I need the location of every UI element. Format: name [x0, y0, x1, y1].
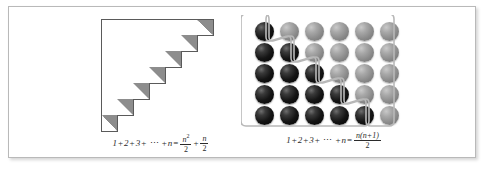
- grid-cell: [149, 51, 166, 68]
- sphere-light: [280, 22, 299, 41]
- sphere-light: [355, 85, 374, 104]
- sphere-dark: [305, 85, 324, 104]
- grid-cell-diagonal: [101, 115, 118, 132]
- right-ellipsis: ⋯: [323, 135, 332, 145]
- sphere-light: [305, 43, 324, 62]
- grid-cell: [117, 35, 134, 52]
- sphere-light: [380, 22, 399, 41]
- grid-cell: [165, 35, 182, 52]
- left-frac1-denominator: 2: [180, 145, 191, 154]
- sphere-light: [330, 22, 349, 41]
- grid-cell-diagonal: [165, 51, 182, 68]
- grid-cell: [117, 83, 134, 100]
- grid-cell-diagonal: [197, 19, 214, 36]
- sphere-dark: [280, 64, 299, 83]
- left-frac2-denominator: 2: [200, 144, 208, 153]
- left-fraction-n-over-2: n2: [200, 134, 208, 153]
- figure-frame: 1+2+3+ ⋯ +n=n22+n2 1+2+3+ ⋯ +n=n(n+1)2: [8, 6, 476, 158]
- sphere-dark: [255, 22, 274, 41]
- sphere-grid: [251, 19, 411, 129]
- sphere-dark: [280, 106, 299, 125]
- grid-cell: [117, 51, 134, 68]
- grid-cell: [149, 35, 166, 52]
- sphere-dark: [355, 106, 374, 125]
- left-op-4: +: [161, 138, 168, 148]
- left-op-2: +: [129, 138, 136, 148]
- sphere-dark: [280, 43, 299, 62]
- grid-cell: [101, 19, 118, 36]
- grid-cell: [101, 51, 118, 68]
- grid-cell: [117, 19, 134, 36]
- sphere-dark: [255, 106, 274, 125]
- left-equals: =: [172, 138, 179, 148]
- right-fraction: n(n+1)2: [354, 131, 381, 150]
- sphere-light: [355, 22, 374, 41]
- grid-cell: [133, 67, 150, 84]
- sphere-light: [380, 106, 399, 125]
- sphere-light: [355, 64, 374, 83]
- grid-cell: [165, 19, 182, 36]
- sphere-light: [380, 64, 399, 83]
- right-formula: 1+2+3+ ⋯ +n=n(n+1)2: [241, 131, 427, 150]
- sphere-light: [330, 43, 349, 62]
- grid-cell-diagonal: [133, 83, 150, 100]
- grid-cell-diagonal: [181, 35, 198, 52]
- left-figure-panel: 1+2+3+ ⋯ +n=n22+n2: [93, 15, 229, 155]
- sphere-dark: [305, 64, 324, 83]
- left-frac2-numerator: n: [200, 134, 208, 144]
- right-op-4: +: [334, 135, 341, 145]
- right-figure-panel: 1+2+3+ ⋯ +n=n(n+1)2: [241, 15, 427, 155]
- sphere-light: [305, 22, 324, 41]
- sphere-light: [380, 43, 399, 62]
- sphere-dark: [255, 64, 274, 83]
- left-op-3: +: [140, 138, 147, 148]
- sphere-dark: [280, 85, 299, 104]
- right-op-1: +: [291, 135, 298, 145]
- left-ellipsis: ⋯: [150, 138, 159, 148]
- grid-cell: [133, 35, 150, 52]
- sphere-dark: [305, 106, 324, 125]
- grid-cell: [101, 99, 118, 116]
- grid-cell-diagonal: [149, 67, 166, 84]
- left-formula: 1+2+3+ ⋯ +n=n22+n2: [93, 133, 229, 154]
- sphere-dark: [255, 43, 274, 62]
- sphere-dark: [255, 85, 274, 104]
- grid-cell: [117, 67, 134, 84]
- sphere-dark: [330, 85, 349, 104]
- grid-cell: [101, 35, 118, 52]
- sphere-light: [330, 64, 349, 83]
- sphere-light: [380, 85, 399, 104]
- grid-cell: [101, 83, 118, 100]
- sphere-light: [355, 43, 374, 62]
- grid-cell: [181, 19, 198, 36]
- left-term-2: 2: [124, 138, 129, 148]
- right-equals: =: [346, 135, 353, 145]
- grid-cell: [133, 19, 150, 36]
- right-frac-denominator: 2: [354, 141, 381, 150]
- left-rhs-plus: +: [192, 138, 199, 148]
- grid-cell: [149, 19, 166, 36]
- sphere-dark: [330, 106, 349, 125]
- grid-cell: [133, 51, 150, 68]
- left-frac1-exponent: 2: [186, 133, 189, 139]
- left-fraction-n-squared-over-2: n22: [180, 133, 191, 154]
- right-op-3: +: [314, 135, 321, 145]
- right-frac-numerator: n(n+1): [354, 131, 381, 141]
- square-grid: [101, 19, 214, 132]
- grid-cell: [101, 67, 118, 84]
- right-term-1: 1: [286, 135, 291, 145]
- grid-cell-diagonal: [117, 99, 134, 116]
